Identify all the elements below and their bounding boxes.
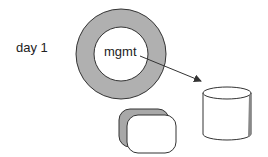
ring-label: mgmt <box>104 44 137 59</box>
day-label: day 1 <box>16 40 48 55</box>
storage-cylinder <box>203 87 251 140</box>
rounded-box-3d <box>119 109 176 153</box>
diagram-canvas: day 1 mgmt <box>0 0 268 157</box>
diagram-svg <box>0 0 268 157</box>
